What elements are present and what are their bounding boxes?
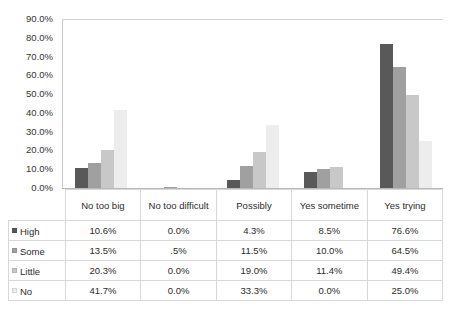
table-cell-value: .5% [140,241,216,261]
table-row: Some13.5%.5%11.5%10.0%64.5% [9,241,443,261]
legend-entry: Little [9,261,66,281]
table-cell-value: 49.4% [367,261,442,281]
table-row: No41.7%0.0%33.3%0.0%25.0% [9,281,443,301]
table-column-header: No too big [65,190,140,221]
bar [101,150,114,188]
bar-chart-with-data-table: 90.0%80.0%70.0%60.0%50.0%40.0%30.0%20.0%… [0,0,451,313]
table-cell-value: 11.5% [217,241,292,261]
table-column-header: Possibly [217,190,292,221]
table-cell-value: 20.3% [65,261,140,281]
bar-group [292,20,368,188]
table-row: High10.6%0.0%4.3%8.5%76.6% [9,221,443,241]
y-axis-tick-label: 80.0% [26,33,53,43]
bar [419,141,432,188]
data-table-body: No too bigNo too difficultPossiblyYes so… [9,190,443,301]
table-cell-value: 10.0% [291,241,367,261]
table-cell-value: 19.0% [217,261,292,281]
legend-series-label: High [20,225,40,236]
y-axis-tick-label: 90.0% [26,14,53,24]
y-axis-tick-label: 10.0% [26,164,53,174]
y-axis-tick-label: 70.0% [26,52,53,62]
bar-group-bars [139,20,215,188]
table-row: Little20.3%0.0%19.0%11.4%49.4% [9,261,443,281]
legend-entry: No [9,281,66,301]
bar [304,172,317,188]
table-cell-value: 8.5% [291,221,367,241]
bar [380,44,393,188]
bar [75,168,88,188]
table-cell-value: 76.6% [367,221,442,241]
y-axis-tick-label: 30.0% [26,127,53,137]
legend-entry: High [9,221,66,241]
table-cell-value: 10.6% [65,221,140,241]
bar-group-bars [215,20,291,188]
bar [266,125,279,188]
table-cell-value: 0.0% [140,261,216,281]
bar [330,167,343,188]
legend-swatch-icon [12,228,17,233]
y-axis-tick-label: 20.0% [26,145,53,155]
legend-series-label: Some [20,245,45,256]
data-table: No too bigNo too difficultPossiblyYes so… [8,189,443,301]
y-axis-tick-label: 50.0% [26,89,53,99]
table-cell-value: 13.5% [65,241,140,261]
table-corner-cell [9,190,66,221]
bar [393,67,406,188]
table-cell-value: 25.0% [367,281,442,301]
bar-group-bars [63,20,139,188]
bar [317,169,330,188]
bar-group [139,20,215,188]
table-cell-value: 4.3% [217,221,292,241]
table-cell-value: 0.0% [140,281,216,301]
legend-swatch-icon [12,288,17,293]
table-header-row: No too bigNo too difficultPossiblyYes so… [9,190,443,221]
legend-swatch-icon [12,268,17,273]
legend-series-label: Little [20,265,40,276]
plot-area [62,19,443,188]
bar-group [63,20,139,188]
table-column-header: Yes sometime [291,190,367,221]
legend-series-label: No [20,285,32,296]
bar-group-bars [368,20,444,188]
legend-swatch-icon [12,248,17,253]
bar [88,163,101,188]
bar-group [368,20,444,188]
bar [253,152,266,188]
legend-entry: Some [9,241,66,261]
bar [240,166,253,188]
table-cell-value: 11.4% [291,261,367,281]
y-axis: 90.0%80.0%70.0%60.0%50.0%40.0%30.0%20.0%… [0,12,56,196]
table-column-header: No too difficult [140,190,216,221]
bar [227,180,240,188]
table-cell-value: 33.3% [217,281,292,301]
bar [114,110,127,188]
table-cell-value: 0.0% [291,281,367,301]
table-cell-value: 64.5% [367,241,442,261]
table-column-header: Yes trying [367,190,442,221]
y-axis-tick-label: 40.0% [26,108,53,118]
y-axis-tick-label: 60.0% [26,70,53,80]
bar [406,95,419,188]
table-cell-value: 0.0% [140,221,216,241]
table-cell-value: 41.7% [65,281,140,301]
bar-group-bars [292,20,368,188]
bar-group [215,20,291,188]
